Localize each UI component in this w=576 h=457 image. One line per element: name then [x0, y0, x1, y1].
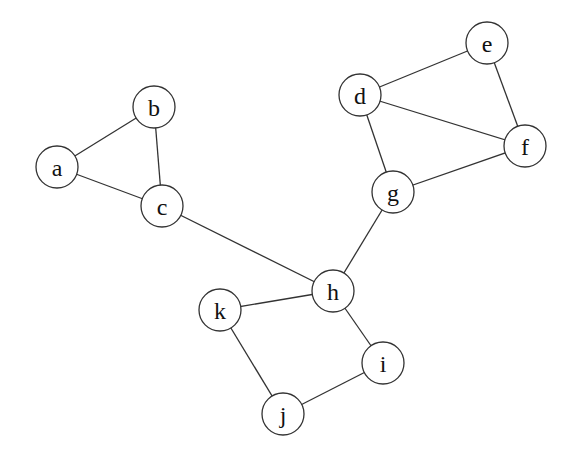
node-label: c	[157, 194, 168, 220]
edge-layer	[57, 43, 525, 414]
node-h: h	[312, 270, 354, 312]
node-layer: abcdefghijk	[36, 22, 546, 435]
node-g: g	[372, 171, 414, 213]
edge-c-h	[162, 206, 333, 291]
node-e: e	[466, 22, 508, 64]
node-label: k	[214, 298, 226, 324]
node-label: a	[52, 155, 63, 181]
node-label: j	[279, 402, 287, 428]
node-j: j	[262, 393, 304, 435]
node-c: c	[141, 185, 183, 227]
node-label: f	[521, 134, 529, 160]
node-label: h	[327, 279, 339, 305]
node-label: g	[387, 180, 399, 206]
node-d: d	[339, 74, 381, 116]
graph-canvas: abcdefghijk	[0, 0, 576, 457]
node-label: d	[354, 83, 366, 109]
node-label: e	[482, 31, 493, 57]
edge-d-f	[360, 95, 525, 146]
node-label: b	[148, 95, 160, 121]
node-k: k	[199, 289, 241, 331]
node-f: f	[504, 125, 546, 167]
node-i: i	[362, 342, 404, 384]
node-a: a	[36, 146, 78, 188]
node-b: b	[133, 86, 175, 128]
node-label: i	[380, 351, 387, 377]
